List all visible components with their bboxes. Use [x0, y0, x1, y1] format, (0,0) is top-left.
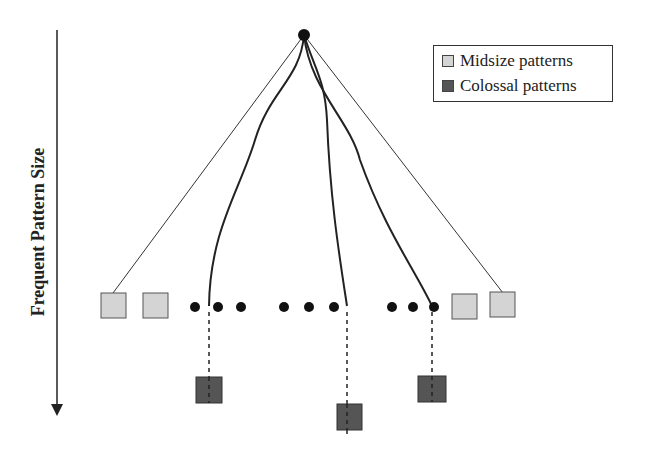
- pattern-dots: [190, 302, 439, 312]
- midsize-pattern: [143, 293, 168, 318]
- root-node: [298, 29, 310, 41]
- midsize-pattern: [490, 292, 515, 317]
- legend-item-midsize: Midsize patterns: [442, 51, 573, 71]
- colossal-swatch-icon: [442, 80, 454, 92]
- midsize-pattern: [101, 293, 126, 318]
- axis-label: Frequent Pattern Size: [28, 148, 49, 317]
- edge-to-midsize-left: [113, 35, 304, 293]
- dashed-connectors: [209, 312, 432, 434]
- legend-label: Midsize patterns: [460, 51, 573, 71]
- edge-to-colossal-3: [304, 35, 432, 306]
- edge-to-colossal-1: [209, 35, 304, 306]
- legend: Midsize patterns Colossal patterns: [433, 45, 613, 102]
- edge-to-colossal-2: [304, 35, 347, 306]
- legend-item-colossal: Colossal patterns: [442, 76, 577, 96]
- legend-label: Colossal patterns: [460, 76, 577, 96]
- midsize-swatch-icon: [442, 55, 454, 67]
- midsize-pattern: [452, 294, 477, 319]
- axis-arrowhead-icon: [51, 404, 63, 416]
- colossal-pattern: [337, 404, 362, 430]
